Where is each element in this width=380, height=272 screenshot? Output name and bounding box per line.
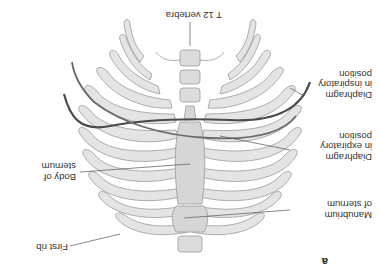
label-diaphragm-expiratory: Diaphragm in expiratory position	[320, 131, 372, 163]
label-manubrium: Manubrium of sternum	[324, 199, 372, 220]
label-t12-vertebra: T 12 vertebra	[166, 10, 222, 21]
label-body-of-sternum: Body of sternum	[42, 161, 76, 182]
ribs-left	[192, 20, 301, 235]
sternum	[172, 106, 208, 232]
panel-letter: a	[322, 256, 328, 268]
manubrium-shape	[172, 206, 208, 232]
rib-cage-figure: a T 12 vertebra First rib Manubrium of s…	[0, 0, 380, 272]
xiphoid-shape	[184, 106, 196, 120]
label-diaphragm-inspiratory: Diaphragm in inspiratory position	[318, 69, 372, 101]
label-first-rib: First rib	[36, 242, 68, 253]
t12-vertebra-shape	[180, 50, 200, 66]
